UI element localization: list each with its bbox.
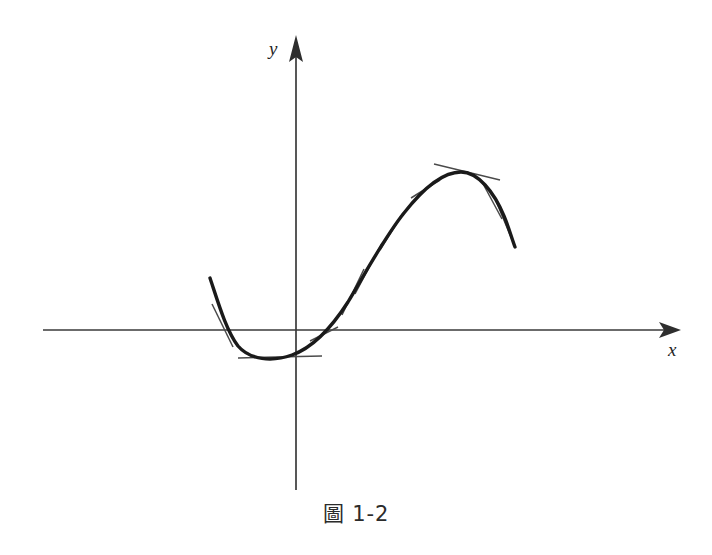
- axes-group: [43, 35, 681, 490]
- y-axis-label: y: [267, 38, 278, 59]
- figure-caption: 圖 1-2: [0, 497, 712, 527]
- figure-container: y x 圖 1-2: [0, 0, 712, 555]
- x-axis-label: x: [667, 339, 677, 360]
- function-curve: [210, 172, 515, 359]
- graph-canvas: y x: [0, 0, 712, 500]
- tangent-segments-group: [212, 164, 513, 358]
